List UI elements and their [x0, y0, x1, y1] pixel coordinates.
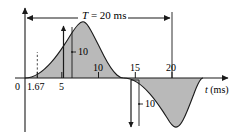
- x-axis-title: t (ms): [205, 85, 229, 95]
- x-tick-label-1-67: 1.67: [27, 82, 45, 92]
- x-axis-symbol: t: [205, 84, 208, 95]
- x-tick-label-5: 5: [59, 82, 64, 92]
- amplitude-label-positive: 10: [78, 47, 88, 57]
- period-value: 20 ms: [100, 9, 127, 21]
- x-tick-label-0: 0: [15, 82, 20, 92]
- x-tick-label-10: 10: [93, 63, 103, 73]
- x-tick-label-20: 20: [166, 63, 176, 73]
- period-symbol: T: [82, 9, 88, 21]
- waveform-fill: [25, 22, 203, 127]
- period-equals: =: [91, 9, 97, 21]
- amplitude-label-negative: 10: [145, 99, 155, 109]
- waveform-figure: T = 20 ms 0 1.67 5 10 15 20 10 10 t (ms): [0, 0, 244, 135]
- period-annotation: T = 20 ms: [82, 10, 126, 21]
- x-axis-unit: (ms): [210, 84, 228, 95]
- x-tick-label-15: 15: [130, 63, 140, 73]
- amplitude-arrow-negative: [131, 80, 143, 127]
